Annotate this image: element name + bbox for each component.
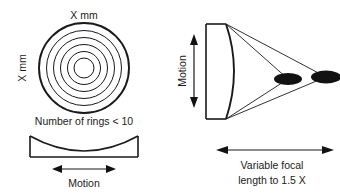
focal-caption-line2: length to 1.5 X (238, 174, 306, 186)
near-focus-spot (274, 73, 302, 85)
left-motion-arrow-head-left (52, 165, 62, 173)
left-diagram-group: X mm X mm Number of rings < 10 (16, 9, 138, 189)
convex-lens-arc (226, 24, 234, 119)
right-motion-arrow (190, 34, 198, 108)
left-motion-arrow (52, 165, 116, 173)
lens-housing-frame (206, 24, 226, 119)
focal-caption-line1: Variable focal (241, 159, 304, 171)
concentric-rings (39, 23, 129, 113)
left-top-dimension-label: X mm (70, 9, 98, 21)
ring-inner-6 (74, 58, 94, 78)
ring-count-caption: Number of rings < 10 (35, 115, 134, 127)
focal-length-arrow (216, 146, 334, 154)
left-motion-arrow-head-right (106, 165, 116, 173)
ray-bundle (226, 24, 326, 119)
left-motion-label: Motion (68, 177, 100, 189)
ring-2 (47, 31, 122, 106)
ring-outer-1 (39, 23, 129, 113)
lens-concave-surface (30, 136, 138, 151)
focal-arrow-head-left (216, 146, 228, 154)
right-motion-label: Motion (176, 55, 188, 87)
figure-container: X mm X mm Number of rings < 10 (0, 0, 340, 194)
right-diagram-group: Motion (176, 24, 340, 186)
ray-bottom-to-far-focus (226, 77, 326, 119)
ring-3 (54, 38, 115, 99)
focal-arrow-head-right (322, 146, 334, 154)
far-focus-spot (311, 71, 340, 84)
right-motion-arrow-head-top (190, 34, 198, 45)
concave-lens-cross-section (30, 136, 138, 157)
figure-canvas: X mm X mm Number of rings < 10 (0, 0, 340, 194)
ring-5 (68, 52, 101, 85)
ray-top-to-far-focus (226, 24, 326, 77)
right-motion-arrow-head-bottom (190, 97, 198, 108)
left-side-dimension-label: X mm (16, 54, 28, 82)
ray-bottom-to-near-focus (226, 79, 288, 119)
